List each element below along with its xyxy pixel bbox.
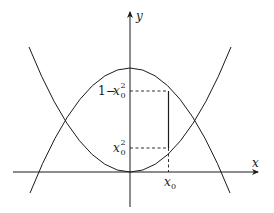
svg-text:2: 2 <box>121 81 126 90</box>
svg-text:x: x <box>113 141 120 155</box>
svg-text:0: 0 <box>121 148 126 157</box>
svg-text:0: 0 <box>121 91 126 100</box>
label-one-minus-x0-squared: 1− x 2 0 <box>98 81 126 100</box>
label-x0-squared: x 2 0 <box>113 138 126 157</box>
svg-text:x: x <box>113 84 120 98</box>
svg-text:0: 0 <box>171 182 176 191</box>
svg-text:x: x <box>164 175 171 189</box>
x-axis-label: x <box>252 156 259 170</box>
label-x0: x 0 <box>164 175 176 191</box>
y-axis-label: y <box>135 9 143 23</box>
parabola-diagram: y x 1− x 2 0 x 2 0 x 0 <box>0 0 274 213</box>
svg-text:2: 2 <box>121 138 126 147</box>
